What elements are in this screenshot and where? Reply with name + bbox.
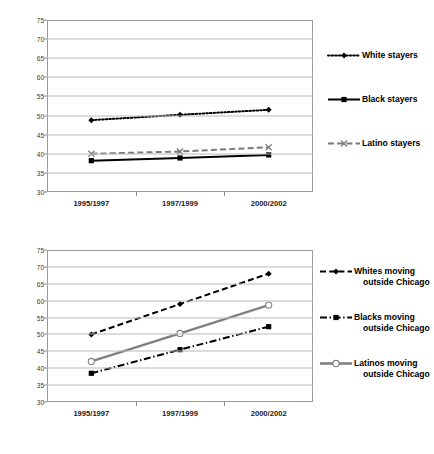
gridline bbox=[47, 334, 313, 335]
series-marker bbox=[177, 155, 182, 160]
y-tick-label: 40 bbox=[24, 150, 44, 157]
gridline bbox=[47, 317, 313, 318]
series-marker bbox=[89, 371, 94, 376]
y-tick-label: 75 bbox=[24, 247, 44, 254]
legend-top: White stayersBlack stayersLatino stayers bbox=[327, 50, 434, 160]
y-tick-label: 50 bbox=[24, 112, 44, 119]
y-tick-mark bbox=[44, 77, 47, 78]
plot-area-top: 303540455055606570751995/19971997/199920… bbox=[47, 20, 313, 192]
dotted-diamond-key-icon bbox=[327, 50, 361, 61]
gridline bbox=[47, 39, 313, 40]
y-tick-label: 60 bbox=[24, 74, 44, 81]
y-tick-mark bbox=[44, 172, 47, 173]
x-tick-label: 1995/1997 bbox=[73, 409, 109, 418]
y-tick-label: 30 bbox=[24, 189, 44, 196]
series-marker bbox=[266, 271, 272, 277]
y-tick-mark bbox=[44, 368, 47, 369]
series-marker bbox=[88, 117, 94, 123]
series-marker bbox=[177, 301, 183, 307]
legend-item[interactable]: Whites movingoutside Chicago bbox=[319, 266, 430, 287]
series-layer-bottom bbox=[47, 250, 313, 402]
plot-area-bottom: 303540455055606570751995/19971997/199920… bbox=[47, 250, 313, 402]
y-tick-label: 70 bbox=[24, 263, 44, 270]
legend-label: White stayers bbox=[362, 50, 418, 61]
x-tick-label: 1995/1997 bbox=[73, 199, 109, 208]
dashdot-square-key-icon bbox=[319, 312, 353, 323]
y-tick-mark bbox=[44, 402, 47, 403]
y-tick-mark bbox=[44, 385, 47, 386]
x-tick-mark bbox=[224, 192, 225, 196]
y-tick-label: 50 bbox=[24, 331, 44, 338]
y-tick-mark bbox=[44, 250, 47, 251]
legend-item[interactable]: Latino stayers bbox=[327, 138, 420, 149]
y-tick-label: 60 bbox=[24, 297, 44, 304]
gridline bbox=[47, 58, 313, 59]
legend-label: Latinos movingoutside Chicago bbox=[354, 358, 430, 379]
y-tick-label: 55 bbox=[24, 93, 44, 100]
dashed-diamond-key-icon bbox=[319, 266, 353, 277]
legend-label: Black stayers bbox=[362, 94, 417, 105]
chart-stayers: Median income, in thousands 303540455055… bbox=[0, 0, 434, 230]
x-tick-label: 1997/1999 bbox=[162, 409, 198, 418]
series-marker bbox=[266, 302, 272, 308]
gridline bbox=[47, 96, 313, 97]
gridline bbox=[47, 385, 313, 386]
y-tick-mark bbox=[44, 20, 47, 21]
series-marker bbox=[266, 324, 271, 329]
y-tick-label: 55 bbox=[24, 314, 44, 321]
y-tick-label: 45 bbox=[24, 131, 44, 138]
legend-item[interactable]: Black stayers bbox=[327, 94, 417, 105]
chart-movers: Median income, in thousands 303540455055… bbox=[0, 230, 434, 454]
y-tick-mark bbox=[44, 192, 47, 193]
y-tick-mark bbox=[44, 351, 47, 352]
gridline bbox=[47, 77, 313, 78]
y-tick-label: 70 bbox=[24, 36, 44, 43]
y-tick-mark bbox=[44, 96, 47, 97]
gridline bbox=[47, 368, 313, 369]
y-tick-mark bbox=[44, 283, 47, 284]
y-tick-label: 45 bbox=[24, 348, 44, 355]
legend-bottom: Whites movingoutside ChicagoBlacks movin… bbox=[319, 266, 434, 396]
y-tick-mark bbox=[44, 58, 47, 59]
x-tick-label: 2000/2002 bbox=[251, 409, 287, 418]
x-tick-mark bbox=[224, 402, 225, 406]
gray-circle-key-icon bbox=[319, 358, 353, 369]
legend-label: Latino stayers bbox=[362, 138, 420, 149]
y-tick-mark bbox=[44, 334, 47, 335]
x-tick-mark bbox=[136, 402, 137, 406]
y-tick-label: 65 bbox=[24, 280, 44, 287]
y-tick-label: 65 bbox=[24, 55, 44, 62]
dashed-x-key-icon bbox=[327, 138, 361, 149]
y-tick-mark bbox=[44, 39, 47, 40]
gridline bbox=[47, 153, 313, 154]
y-tick-mark bbox=[44, 300, 47, 301]
gridline bbox=[47, 300, 313, 301]
gridline bbox=[47, 266, 313, 267]
y-tick-label: 40 bbox=[24, 365, 44, 372]
legend-label: Blacks movingoutside Chicago bbox=[354, 312, 430, 333]
y-tick-label: 75 bbox=[24, 17, 44, 24]
y-tick-mark bbox=[44, 317, 47, 318]
series-marker bbox=[89, 158, 94, 163]
y-tick-mark bbox=[44, 153, 47, 154]
y-tick-label: 30 bbox=[24, 399, 44, 406]
x-tick-label: 1997/1999 bbox=[162, 199, 198, 208]
y-tick-label: 35 bbox=[24, 169, 44, 176]
legend-item[interactable]: Blacks movingoutside Chicago bbox=[319, 312, 430, 333]
legend-item[interactable]: White stayers bbox=[327, 50, 418, 61]
x-tick-mark bbox=[136, 192, 137, 196]
legend-item[interactable]: Latinos movingoutside Chicago bbox=[319, 358, 430, 379]
y-tick-mark bbox=[44, 134, 47, 135]
gridline bbox=[47, 115, 313, 116]
y-tick-mark bbox=[44, 115, 47, 116]
solid-square-key-icon bbox=[327, 94, 361, 105]
x-tick-label: 2000/2002 bbox=[251, 199, 287, 208]
gridline bbox=[47, 283, 313, 284]
series-marker bbox=[266, 107, 272, 113]
gridline bbox=[47, 172, 313, 173]
legend-label: Whites movingoutside Chicago bbox=[354, 266, 430, 287]
gridline bbox=[47, 134, 313, 135]
series-layer-top bbox=[47, 20, 313, 192]
gridline bbox=[47, 351, 313, 352]
y-tick-label: 35 bbox=[24, 382, 44, 389]
